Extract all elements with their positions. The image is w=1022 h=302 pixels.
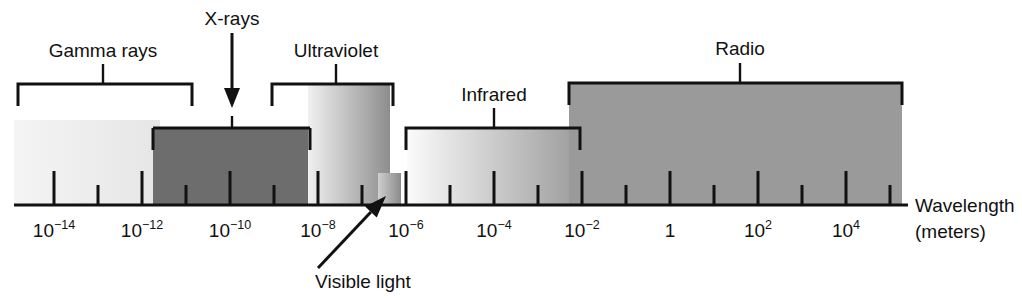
band-label-infrared: Infrared xyxy=(461,84,526,105)
tick-label-5: 10−4 xyxy=(476,218,511,241)
tick-label-exponent-6: −2 xyxy=(585,218,599,232)
tick-label-7: 1 xyxy=(665,220,676,241)
tick-label-9: 104 xyxy=(832,218,860,241)
band-label-visible-light: Visible light xyxy=(315,271,411,292)
tick-label-base-4: 10 xyxy=(388,220,409,241)
tick-label-4: 10−6 xyxy=(388,218,423,241)
tick-label-base-0: 10 xyxy=(33,220,54,241)
axis-title-text: Wavelength (meters) xyxy=(915,195,1015,242)
tick-label-exponent-8: 2 xyxy=(765,218,772,232)
tick-label-texts: 10−1410−1210−1010−810−610−410−21102104 xyxy=(33,218,860,241)
spectrum-text-layer: Gamma raysX-raysUltravioletVisible light… xyxy=(0,0,1022,302)
tick-label-base-3: 10 xyxy=(300,220,321,241)
tick-label-0: 10−14 xyxy=(33,218,75,241)
tick-label-exponent-9: 4 xyxy=(853,218,860,232)
tick-label-exponent-2: −10 xyxy=(230,218,251,232)
tick-label-exponent-3: −8 xyxy=(321,218,335,232)
band-label-x-rays: X-rays xyxy=(205,8,260,29)
band-label-gamma-rays: Gamma rays xyxy=(49,40,158,61)
band-label-radio: Radio xyxy=(715,38,765,59)
electromagnetic-spectrum-figure: Gamma raysX-raysUltravioletVisible light… xyxy=(0,0,1022,302)
band-label-texts: Gamma raysX-raysUltravioletVisible light… xyxy=(49,8,765,292)
tick-label-base-8: 10 xyxy=(744,220,765,241)
band-label-ultraviolet: Ultraviolet xyxy=(294,40,379,61)
tick-label-base-5: 10 xyxy=(476,220,497,241)
tick-label-base-9: 10 xyxy=(832,220,853,241)
tick-label-base-6: 10 xyxy=(564,220,585,241)
tick-label-exponent-0: −14 xyxy=(54,218,75,232)
tick-label-exponent-5: −4 xyxy=(497,218,511,232)
tick-label-6: 10−2 xyxy=(564,218,599,241)
tick-label-base-1: 10 xyxy=(121,220,142,241)
axis-title-line1: Wavelength xyxy=(915,195,1015,216)
tick-label-3: 10−8 xyxy=(300,218,335,241)
tick-label-exponent-4: −6 xyxy=(409,218,423,232)
tick-label-8: 102 xyxy=(744,218,772,241)
axis-title-line2: (meters) xyxy=(915,221,986,242)
tick-label-base-2: 10 xyxy=(209,220,230,241)
tick-label-base-7: 1 xyxy=(665,220,676,241)
tick-label-1: 10−12 xyxy=(121,218,163,241)
tick-label-exponent-1: −12 xyxy=(142,218,163,232)
tick-label-2: 10−10 xyxy=(209,218,251,241)
